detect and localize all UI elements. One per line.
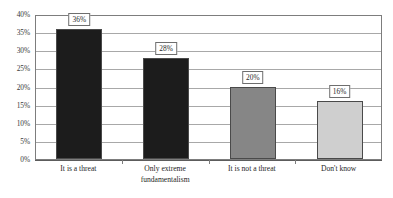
- bar-slot: 20%: [210, 16, 297, 159]
- bar-slot: 16%: [296, 16, 383, 159]
- bar-value-label: 28%: [155, 42, 177, 55]
- bar[interactable]: [56, 29, 102, 160]
- x-axis-category-label: It is a threat: [35, 164, 122, 175]
- x-axis-tick: [295, 160, 296, 164]
- bar-slot: 36%: [36, 16, 123, 159]
- y-axis-tick-label: 35%: [17, 29, 30, 37]
- y-axis-tick-label: 5%: [20, 138, 30, 146]
- bar-chart: 0%5%10%15%20%25%30%35%40% 36%28%20%16% I…: [0, 0, 393, 198]
- bar[interactable]: [143, 58, 189, 160]
- bar-slot: 28%: [123, 16, 210, 159]
- x-axis-tick: [122, 160, 123, 164]
- bar[interactable]: [317, 101, 363, 159]
- y-axis-tick-label: 25%: [17, 65, 30, 73]
- y-axis-tick-label: 20%: [17, 84, 30, 92]
- bars-layer: 36%28%20%16%: [36, 16, 381, 159]
- y-axis-tick-label: 10%: [17, 120, 30, 128]
- bar-value-label: 16%: [329, 85, 351, 98]
- x-axis-labels: It is a threatOnly extreme fundamentalis…: [35, 164, 382, 198]
- bar-value-label: 20%: [242, 71, 264, 84]
- x-axis-category-label: Don't know: [295, 164, 382, 175]
- y-axis-tick-label: 40%: [17, 11, 30, 19]
- bar-value-label: 36%: [69, 13, 91, 26]
- x-axis-category-label: It is not a threat: [209, 164, 296, 175]
- y-axis-tick-label: 15%: [17, 102, 30, 110]
- plot-area: 36%28%20%16%: [35, 15, 382, 160]
- x-axis-tick: [209, 160, 210, 164]
- y-axis-tick-label: 30%: [17, 47, 30, 55]
- bar[interactable]: [230, 87, 276, 160]
- y-axis-tick-label: 0%: [20, 156, 30, 164]
- y-axis: 0%5%10%15%20%25%30%35%40%: [0, 0, 34, 198]
- x-axis-category-label: Only extreme fundamentalism: [122, 164, 209, 185]
